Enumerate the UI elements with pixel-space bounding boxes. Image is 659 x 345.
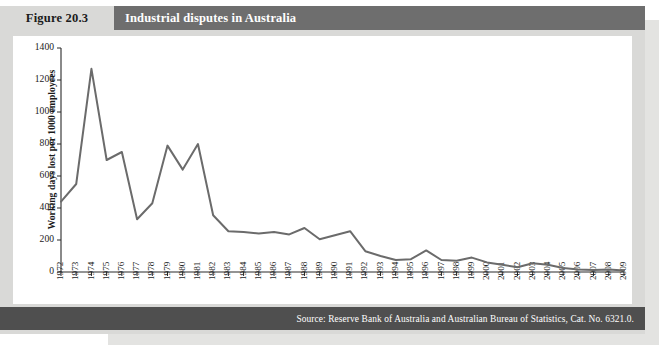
- x-tick-label: 1991: [344, 261, 354, 280]
- y-tick-label: 0: [49, 265, 54, 276]
- x-tick-label: 1975: [101, 261, 111, 280]
- x-tick-label: 1973: [70, 261, 80, 280]
- x-tick-label: 1977: [131, 261, 141, 280]
- y-tick-label: 400: [40, 201, 55, 212]
- source-band: Source: Reserve Bank of Australia and Au…: [0, 307, 645, 330]
- x-tick-label: 1993: [375, 261, 385, 280]
- x-tick-label: 1986: [268, 261, 278, 280]
- x-tick-label: 1995: [405, 261, 415, 280]
- x-tick-label: 1981: [192, 261, 202, 280]
- figure-title: Industrial disputes in Australia: [114, 6, 645, 30]
- plot-area: Working days lost per 1000 employees 020…: [13, 36, 632, 304]
- x-tick-label: 2002: [512, 261, 522, 280]
- x-tick-label: 1994: [390, 261, 400, 280]
- x-tick-label: 1978: [146, 261, 156, 280]
- figure-header: Figure 20.3 Industrial disputes in Austr…: [0, 6, 645, 30]
- x-tick-label: 1988: [299, 261, 309, 280]
- x-tick-label: 1979: [162, 261, 172, 280]
- y-tick-label: 1000: [35, 105, 54, 116]
- x-tick-label: 1982: [207, 261, 217, 280]
- x-tick-label: 1980: [177, 261, 187, 280]
- x-tick-label: 1992: [359, 261, 369, 280]
- series-line-working-days-lost: [61, 69, 624, 271]
- y-tick-label: 200: [40, 233, 55, 244]
- x-tick-label: 1976: [116, 261, 126, 280]
- x-tick-label: 1989: [314, 261, 324, 280]
- x-tick-label: 1974: [86, 261, 96, 280]
- x-tick-label: 1983: [222, 261, 232, 280]
- x-tick-label: 1985: [253, 261, 263, 280]
- source-note: Source: Reserve Bank of Australia and Au…: [296, 314, 634, 324]
- figure-screenshot: Figure 20.3 Industrial disputes in Austr…: [0, 0, 659, 345]
- figure-number: Figure 20.3: [0, 6, 114, 30]
- x-tick-label: 2000: [481, 261, 491, 280]
- line-chart: 0200400600800100012001400197219731974197…: [13, 36, 632, 304]
- y-tick-label: 1200: [35, 73, 54, 84]
- y-tick-label: 1400: [35, 41, 54, 52]
- x-tick-label: 1972: [55, 261, 65, 280]
- y-tick-label: 600: [40, 169, 55, 180]
- x-tick-label: 1997: [436, 261, 446, 280]
- x-tick-label: 1990: [329, 261, 339, 280]
- x-tick-label: 1999: [466, 261, 476, 280]
- x-tick-label: 1984: [238, 261, 248, 280]
- x-tick-label: 1998: [451, 261, 461, 280]
- y-tick-label: 800: [40, 137, 55, 148]
- x-tick-label: 1996: [420, 261, 430, 280]
- x-tick-label: 2005: [557, 261, 567, 280]
- x-tick-label: 1987: [283, 261, 293, 280]
